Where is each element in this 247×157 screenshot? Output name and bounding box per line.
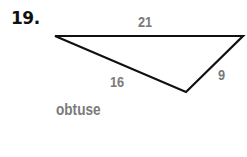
side-label-top: 21: [138, 13, 152, 30]
side-label-right: 9: [218, 66, 225, 83]
side-label-left: 16: [110, 73, 124, 90]
triangle-shape: [55, 36, 243, 92]
triangle-classification: obtuse: [56, 101, 101, 119]
